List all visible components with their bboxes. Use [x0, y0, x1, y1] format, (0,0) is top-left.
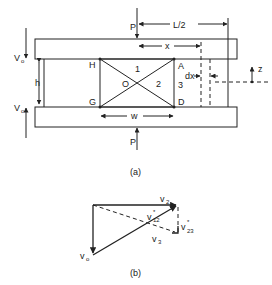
v23-label: v	[181, 222, 186, 232]
shear-top-label: V	[14, 53, 20, 63]
region-1-label: 1	[135, 64, 140, 74]
caption-a: (a)	[130, 167, 141, 177]
v3-sub: 3	[158, 239, 162, 245]
v12-sup: *	[153, 209, 156, 215]
v3-label: v	[152, 234, 157, 244]
top-flange	[35, 39, 237, 59]
load-top-label: P	[130, 22, 136, 32]
vo-label: v	[80, 251, 85, 261]
x-label: x	[165, 41, 170, 51]
v23-sub: 23	[187, 228, 194, 234]
node-H-dot	[99, 58, 102, 61]
z-origin-dot	[251, 81, 254, 84]
shear-bottom-label: V	[14, 103, 20, 113]
z-label: z	[258, 64, 263, 74]
node-D-label: D	[178, 97, 185, 107]
h-label: h	[35, 78, 40, 88]
v12-label: v	[147, 212, 152, 222]
region-2-label: 2	[156, 79, 161, 89]
node-O-label: O	[122, 79, 129, 89]
half-span-label: L/2	[173, 20, 186, 30]
vector-v3	[93, 205, 175, 232]
node-G-label: G	[89, 97, 96, 107]
dx-label: dx	[185, 71, 195, 81]
node-H-label: H	[89, 60, 96, 70]
v23-sup: *	[187, 219, 190, 225]
vo-sub: o	[86, 256, 90, 262]
caption-b: (b)	[130, 268, 141, 278]
v2-sub: 2	[166, 199, 170, 205]
load-bottom-label: P	[130, 137, 136, 147]
figure-b: v 2 v * 12 v * 23 v 3 v o (b)	[80, 194, 194, 278]
v12-sub: 12	[153, 217, 160, 223]
w-label: w	[130, 111, 138, 121]
node-G-dot	[99, 106, 102, 109]
node-D-dot	[173, 106, 176, 109]
figure-a: h V o V o H G A D O 1 2 3 P P L/2	[14, 8, 270, 177]
diagram-canvas: h V o V o H G A D O 1 2 3 P P L/2	[0, 0, 272, 285]
shear-top-sub: o	[21, 58, 25, 64]
shear-bottom-sub: o	[21, 108, 25, 114]
node-A-label: A	[178, 61, 184, 71]
vector-v12-star	[93, 206, 176, 255]
region-3-label: 3	[178, 80, 183, 90]
node-A-dot	[173, 58, 176, 61]
v2-label: v	[160, 194, 165, 204]
